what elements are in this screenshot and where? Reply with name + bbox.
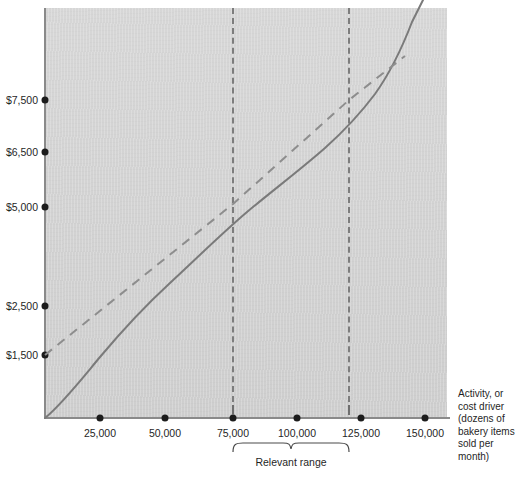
relevant-range-upper-tick	[348, 405, 350, 415]
y-tick-dot	[42, 149, 49, 156]
x-axis-caption-line: (dozens of	[458, 413, 515, 426]
relevant-range-lower-tick	[232, 405, 234, 415]
relevant-range-label: Relevant range	[255, 456, 326, 469]
x-tick-dot	[422, 415, 429, 422]
x-axis-caption-line: cost driver	[458, 401, 515, 414]
relevant-range-lower-boundary	[232, 8, 234, 412]
y-tick-dot	[42, 352, 49, 359]
plot-area	[45, 8, 447, 418]
x-tick-label: 50,000	[149, 427, 181, 439]
y-tick-label: $2,500	[0, 301, 38, 312]
x-axis-caption-line: sold per	[458, 438, 515, 451]
y-tick-label: $5,000	[0, 202, 38, 213]
x-tick-label: 150,000	[406, 427, 444, 439]
relevant-range-upper-boundary	[348, 8, 350, 412]
y-tick-label: $7,500	[0, 95, 38, 106]
x-tick-label: 25,000	[84, 427, 116, 439]
x-axis-caption: Activity, or cost driver (dozens of bake…	[458, 388, 515, 463]
x-tick-label: 125,000	[342, 427, 380, 439]
y-tick-label: $1,500	[0, 350, 38, 361]
x-tick-dot	[162, 415, 169, 422]
x-tick-dot	[230, 415, 237, 422]
x-axis-caption-line: Activity, or	[458, 388, 515, 401]
x-axis-caption-line: bakery items	[458, 426, 515, 439]
x-tick-dot	[294, 415, 301, 422]
x-tick-dot	[97, 415, 104, 422]
y-tick-dot	[42, 204, 49, 211]
x-tick-dot	[358, 415, 365, 422]
x-tick-label: 75,000	[217, 427, 249, 439]
x-axis-caption-line: month)	[458, 451, 515, 464]
x-tick-label: 100,000	[278, 427, 316, 439]
relevant-range-brace	[233, 443, 349, 452]
x-axis-line	[45, 417, 450, 419]
cost-behavior-chart: $7,500 $6,500 $5,000 $2,500 $1,500 25,00…	[0, 0, 515, 478]
y-tick-dot	[42, 97, 49, 104]
y-tick-dot	[42, 303, 49, 310]
y-tick-label: $6,500	[0, 147, 38, 158]
